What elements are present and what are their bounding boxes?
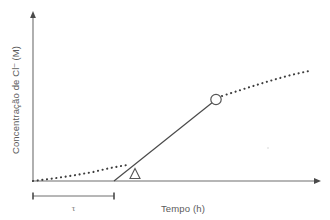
measured-curve-plateau-segment [222,71,309,96]
circle-marker [211,94,221,104]
measured-curve-induction-segment [33,165,127,181]
y-axis-title-prefix: Concentração de Cl [10,67,21,154]
x-axis-arrow-icon [314,178,321,184]
triangle-marker [130,169,140,179]
tau-label: τ [72,203,76,213]
induction-period-bracket: τ [33,193,114,214]
tangent-line-series [114,102,213,181]
y-axis-title: Concentração de Cl– (M) [10,46,21,154]
y-axis-title-suffix: (M) [10,46,21,63]
y-axis-arrow-icon [30,11,36,18]
svg-text:Concentração de Cl– (M): Concentração de Cl– (M) [10,46,21,154]
concentration-vs-time-plot: τ Tempo (h) Concentração de Cl– (M) [0,0,330,220]
x-axis-title: Tempo (h) [161,203,205,214]
axes-group [30,11,321,184]
scan-artifact-speck [267,147,268,148]
measured-curve-series [33,71,309,181]
chart-container: τ Tempo (h) Concentração de Cl– (M) [0,0,330,220]
